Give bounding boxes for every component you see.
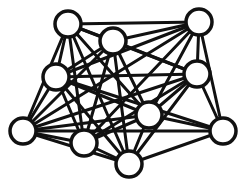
node-D <box>43 64 69 90</box>
edge-A-C <box>68 22 199 24</box>
node-E <box>184 61 210 87</box>
node-G <box>10 118 36 144</box>
node-F <box>136 102 162 128</box>
node-A <box>55 11 81 37</box>
node-J <box>210 118 236 144</box>
node-C <box>186 9 212 35</box>
edge-D-E <box>56 74 197 77</box>
node-H <box>71 130 97 156</box>
node-B <box>100 28 126 54</box>
network-diagram <box>0 0 246 191</box>
nodes-layer <box>10 9 236 177</box>
node-I <box>116 151 142 177</box>
